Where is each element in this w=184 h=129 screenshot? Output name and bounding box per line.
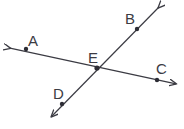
point-label-b: B <box>125 11 135 26</box>
point-marker-e <box>94 65 99 70</box>
point-label-d: D <box>53 86 64 101</box>
point-marker-c <box>155 78 159 82</box>
point-marker-b <box>135 27 139 31</box>
point-marker-d <box>60 102 64 106</box>
line-bd <box>52 8 159 117</box>
point-label-e: E <box>88 50 98 65</box>
point-label-a: A <box>28 33 38 48</box>
geometry-figure: A B C D E <box>0 0 184 129</box>
point-label-c: C <box>156 61 167 76</box>
